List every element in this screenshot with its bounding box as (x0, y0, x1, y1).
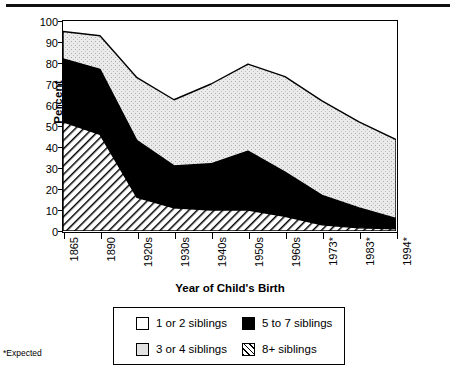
y-tick-label: 40 (28, 143, 58, 153)
stacked-area-chart: Percent 0102030405060708090100 186518901… (0, 0, 456, 385)
x-tick-label: 1865 (68, 237, 80, 283)
y-tick-label: 0 (28, 227, 58, 237)
y-tick-label: 10 (28, 206, 58, 216)
x-tick-label: 1950s (253, 237, 265, 283)
x-tick-label: 1983* (364, 237, 376, 283)
legend-item-1-or-2-siblings: 1 or 2 siblings (136, 312, 227, 334)
legend-item-5-to-7-siblings: 5 to 7 siblings (242, 312, 332, 334)
chart-legend: 1 or 2 siblings 5 to 7 siblings 3 or 4 s… (113, 307, 345, 365)
y-axis-tick-labels: 0102030405060708090100 (26, 20, 58, 233)
hatched-square-icon (242, 343, 255, 356)
legend-label: 3 or 4 siblings (156, 343, 227, 355)
white-square-icon (136, 317, 149, 330)
x-tick-label: 1890 (105, 237, 117, 283)
legend-label: 1 or 2 siblings (156, 317, 227, 329)
x-tick-label: 1940s (216, 237, 228, 283)
area-series-svg (63, 21, 396, 231)
y-tick-label: 100 (28, 17, 58, 27)
x-tick-label: 1930s (179, 237, 191, 283)
legend-item-8-plus-siblings: 8+ siblings (242, 338, 317, 360)
y-tick-label: 60 (28, 101, 58, 111)
legend-label: 5 to 7 siblings (262, 317, 332, 329)
footnote-expected: *Expected (3, 348, 42, 358)
x-tick-label: 1994* (401, 237, 413, 283)
legend-item-3-or-4-siblings: 3 or 4 siblings (136, 338, 227, 360)
y-tick-label: 50 (28, 122, 58, 132)
black-square-icon (242, 317, 255, 330)
legend-row: 1 or 2 siblings 5 to 7 siblings (114, 312, 346, 334)
x-tick-label: 1960s (290, 237, 302, 283)
x-tick-label: 1920s (142, 237, 154, 283)
x-tick-label: 1973* (327, 237, 339, 283)
y-tick-label: 80 (28, 59, 58, 69)
y-tick-label: 20 (28, 185, 58, 195)
y-tick-label: 70 (28, 80, 58, 90)
legend-label: 8+ siblings (262, 343, 317, 355)
legend-row: 3 or 4 siblings 8+ siblings (114, 338, 346, 360)
plot-area (62, 20, 398, 233)
x-axis-title: Year of Child's Birth (62, 282, 398, 294)
y-tick-label: 30 (28, 164, 58, 174)
gray-square-icon (136, 343, 149, 356)
x-axis-tick-labels: 186518901920s1930s1940s1950s1960s1973*19… (62, 239, 398, 285)
y-tick-label: 90 (28, 38, 58, 48)
